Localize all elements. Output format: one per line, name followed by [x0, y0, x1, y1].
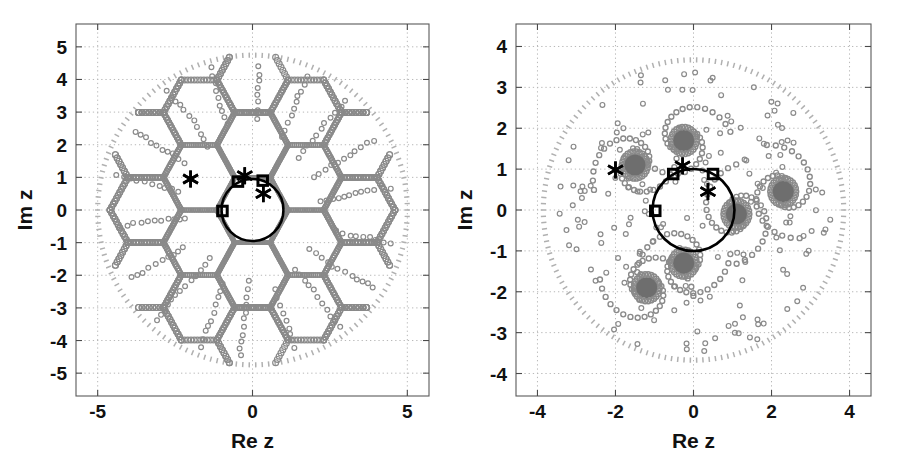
lattice-point — [631, 267, 636, 272]
boundary-dash — [104, 260, 109, 262]
boundary-dash — [379, 294, 383, 297]
lattice-point — [580, 196, 585, 201]
boundary-dash — [721, 60, 722, 65]
boundary-dash — [715, 59, 716, 64]
lattice-point — [152, 218, 157, 223]
boundary-dash — [383, 128, 387, 131]
lattice-point — [685, 216, 690, 221]
boundary-dash — [628, 72, 630, 77]
boundary-dash — [762, 75, 764, 80]
lattice-point — [797, 236, 802, 241]
chart-panel-right: -4-2024-4-3-2-101234Re zIm z — [450, 0, 901, 473]
lattice-point — [682, 72, 687, 77]
lattice-point — [353, 191, 358, 196]
boundary-dash — [805, 306, 809, 309]
lattice-point — [314, 251, 319, 256]
boundary-dash — [118, 289, 122, 292]
boundary-dash — [797, 315, 801, 319]
lattice-point — [365, 188, 370, 193]
x-axis-title: Re z — [231, 429, 274, 452]
boundary-dash — [287, 57, 288, 62]
lattice-point — [694, 242, 699, 247]
boundary-dash — [739, 65, 741, 70]
boundary-dash — [831, 154, 836, 156]
lattice-point — [140, 271, 145, 276]
boundary-dash — [751, 69, 753, 74]
y-tick-label: 2 — [496, 118, 507, 139]
boundary-dash — [563, 286, 567, 289]
square-marker — [651, 206, 661, 216]
lattice-point — [348, 233, 353, 238]
boundary-dash — [574, 302, 578, 305]
lattice-point — [641, 101, 646, 106]
boundary-dash — [236, 361, 237, 366]
lattice-point — [166, 216, 171, 221]
lattice-point — [616, 256, 621, 261]
lattice-point — [257, 78, 262, 83]
boundary-dash — [115, 283, 120, 286]
y-tick-label: -3 — [490, 323, 507, 344]
lattice-point — [665, 232, 670, 237]
lattice-point — [237, 346, 242, 351]
boundary-dash — [339, 81, 342, 85]
lattice-point — [788, 235, 793, 240]
lattice-point — [311, 287, 316, 292]
boundary-dash — [756, 72, 758, 77]
boundary-dash — [587, 315, 591, 319]
boundary-dash — [174, 342, 177, 347]
lattice-point — [244, 295, 249, 300]
lattice-point — [666, 87, 671, 92]
lattice-point — [687, 105, 692, 110]
lattice-point — [660, 256, 665, 261]
lattice-point — [695, 105, 700, 110]
lattice-point — [131, 221, 136, 226]
boundary-dash — [835, 166, 840, 168]
lattice-point — [187, 114, 192, 119]
boundary-dash — [293, 357, 294, 362]
boundary-dash — [180, 70, 182, 75]
lattice-point — [173, 99, 178, 104]
boundary-dash — [97, 184, 102, 185]
lattice-point — [218, 289, 223, 294]
lattice-point — [679, 231, 684, 236]
boundary-dash — [329, 74, 332, 79]
boundary-dash — [617, 338, 620, 343]
lattice-point — [621, 136, 626, 141]
lattice-point — [388, 241, 393, 246]
lattice-point — [683, 283, 688, 288]
lattice-point — [761, 179, 766, 184]
boundary-dash — [97, 235, 102, 236]
lattice-point — [788, 214, 793, 219]
boundary-dash — [792, 320, 795, 324]
lattice-point — [757, 136, 762, 141]
lattice-point — [684, 341, 689, 346]
lattice-point — [728, 129, 733, 134]
lattice-point — [255, 86, 260, 91]
lattice-point — [303, 278, 308, 283]
boundary-dash — [363, 102, 367, 106]
boundary-dash — [300, 60, 302, 65]
boundary-dash — [129, 305, 133, 308]
boundary-dash — [109, 146, 114, 148]
boundary-dash — [109, 272, 114, 274]
lattice-point — [726, 323, 731, 328]
lattice-point — [214, 89, 219, 94]
lattice-point — [680, 107, 685, 112]
lattice-point — [748, 335, 753, 340]
x-tick-label: -5 — [89, 401, 106, 422]
lattice-point — [813, 187, 818, 192]
y-tick-label: 3 — [496, 77, 507, 98]
lattice-point — [698, 298, 703, 303]
lattice-point — [657, 304, 662, 309]
y-tick-label: 4 — [56, 69, 67, 90]
y-axis-title: Im z — [453, 190, 476, 231]
lattice-point — [314, 133, 319, 138]
lattice-point — [216, 295, 221, 300]
lattice-point — [222, 115, 227, 120]
lattice-point — [738, 125, 743, 130]
lattice-point — [242, 324, 247, 329]
lattice-point — [335, 266, 340, 271]
lattice-point — [628, 215, 633, 220]
boundary-dash — [389, 140, 394, 142]
boundary-dash — [709, 58, 710, 63]
